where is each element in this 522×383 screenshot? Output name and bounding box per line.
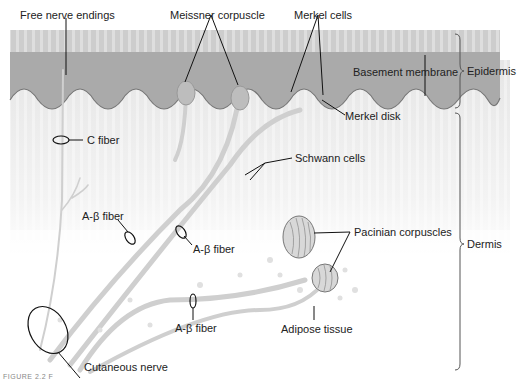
label-adipose-tissue: Adipose tissue	[281, 323, 353, 335]
label-merkel-disk: Merkel disk	[345, 110, 401, 122]
label-a-beta-fiber-2: A-β fiber	[193, 243, 235, 255]
label-a-beta-fiber-3: A-β fiber	[175, 322, 217, 334]
label-meissner-corpuscle: Meissner corpuscle	[170, 9, 265, 21]
meissner-corpuscle-2	[231, 86, 249, 110]
skin-receptor-diagram	[0, 0, 522, 383]
label-dermis: Dermis	[467, 238, 502, 250]
label-epidermis: Epidermis	[467, 65, 516, 77]
meissner-corpuscle-1	[177, 81, 195, 105]
label-free-nerve-endings: Free nerve endings	[20, 9, 115, 21]
figure-caption: FIGURE 2.2 F	[3, 373, 53, 380]
label-merkel-cells: Merkel cells	[294, 9, 352, 21]
label-basement-membrane: Basement membrane	[353, 66, 458, 78]
label-pacinian-corpuscles: Pacinian corpuscles	[354, 226, 452, 238]
label-schwann-cells: Schwann cells	[295, 152, 365, 164]
label-c-fiber: C fiber	[87, 134, 119, 146]
label-cutaneous-nerve: Cutaneous nerve	[84, 361, 168, 373]
label-a-beta-fiber-1: A-β fiber	[82, 210, 124, 222]
